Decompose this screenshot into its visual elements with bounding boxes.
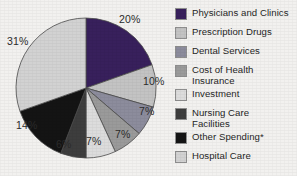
legend-color-swatch	[175, 46, 187, 58]
chart-legend: Physicians and ClinicsPrescription Drugs…	[175, 7, 297, 169]
pie-chart-figure: 20%10%7%7%7%6%14%31% Physicians and Clin…	[0, 0, 297, 176]
legend-item: Physicians and Clinics	[175, 7, 297, 24]
legend-item: Other Spending*	[175, 131, 297, 148]
pie-chart-area: 20%10%7%7%7%6%14%31%	[0, 0, 172, 176]
legend-item: Nursing Care Facilities	[175, 107, 297, 129]
legend-item: Hospital Care	[175, 150, 297, 167]
legend-item-label: Investment	[192, 88, 239, 100]
legend-color-swatch	[175, 151, 187, 163]
pie-slice-value-label: 7%	[86, 136, 101, 147]
legend-item-label: Physicians and Clinics	[192, 7, 289, 19]
pie-slice-value-label: 14%	[16, 120, 37, 131]
legend-item-label: Prescription Drugs	[192, 26, 272, 38]
legend-color-swatch	[175, 65, 187, 77]
pie-slice-value-label: 20%	[119, 14, 140, 25]
legend-item-label: Dental Services	[192, 45, 260, 57]
legend-color-swatch	[175, 27, 187, 39]
legend-item-label: Other Spending*	[192, 131, 264, 143]
pie-slice-value-label: 7%	[139, 106, 154, 117]
legend-color-swatch	[175, 8, 187, 20]
pie-slice-value-label: 7%	[115, 129, 130, 140]
legend-item: Investment	[175, 88, 297, 105]
legend-item: Dental Services	[175, 45, 297, 62]
pie-slice-value-label: 6%	[56, 139, 71, 150]
pie-chart-svg	[0, 0, 172, 176]
legend-color-swatch	[175, 89, 187, 101]
legend-color-swatch	[175, 108, 187, 120]
legend-color-swatch	[175, 132, 187, 144]
legend-item-label: Cost of Health Insurance	[192, 64, 254, 86]
pie-slice-value-label: 10%	[143, 76, 164, 87]
legend-item: Prescription Drugs	[175, 26, 297, 43]
legend-item-label: Nursing Care Facilities	[192, 107, 249, 129]
legend-item: Cost of Health Insurance	[175, 64, 297, 86]
legend-item-label: Hospital Care	[192, 150, 251, 162]
pie-slice-value-label: 31%	[7, 36, 28, 47]
